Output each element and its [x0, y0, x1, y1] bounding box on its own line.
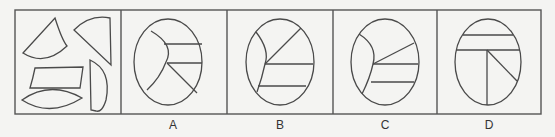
option-d-figure	[455, 19, 521, 105]
option-c-figure	[351, 19, 419, 105]
option-a-figure	[134, 19, 202, 105]
option-d-label[interactable]: D	[479, 118, 499, 132]
option-c-label[interactable]: C	[375, 118, 395, 132]
piece-lens	[22, 89, 82, 108]
piece-sector	[23, 18, 67, 59]
option-a-label[interactable]: A	[163, 118, 183, 132]
question-pieces	[22, 17, 111, 111]
piece-fan	[74, 17, 111, 65]
option-b-label[interactable]: B	[270, 118, 290, 132]
piece-half-ellipse	[90, 60, 107, 111]
piece-quad	[30, 67, 83, 88]
puzzle-figure: A B C D	[0, 0, 555, 137]
puzzle-drawing	[0, 0, 555, 137]
option-b-figure	[246, 19, 314, 105]
